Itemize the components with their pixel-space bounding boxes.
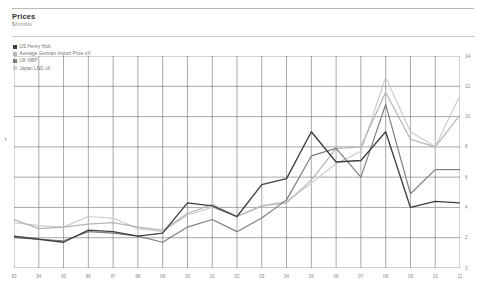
y-axis-tick-label: 0 xyxy=(465,266,481,271)
plot-area xyxy=(14,56,460,268)
x-axis-tick-label: 98 xyxy=(131,274,145,279)
x-axis-tick-label: 94 xyxy=(32,274,46,279)
x-axis-tick-label: 99 xyxy=(156,274,170,279)
header-divider-bottom xyxy=(12,36,474,37)
x-axis-tick-label: 97 xyxy=(106,274,120,279)
y-axis-tick-label: 12 xyxy=(465,84,481,89)
x-axis-tick-label: 05 xyxy=(304,274,318,279)
legend-item-label: UK NBP xyxy=(20,57,38,64)
y-axis-tick-label: 8 xyxy=(465,144,481,149)
legend-item-label: US Henry Hub xyxy=(20,43,51,50)
legend-swatch-icon xyxy=(13,59,17,63)
y-axis-tick-label: 6 xyxy=(465,175,481,180)
chart-figure: Prices $/mmbtu US Henry HubAverage Germa… xyxy=(0,0,493,293)
x-axis-tick-label: 06 xyxy=(329,274,343,279)
y-axis-tick-label: 2 xyxy=(465,235,481,240)
x-axis-tick-label: 10 xyxy=(428,274,442,279)
x-axis-tick-label: 09 xyxy=(403,274,417,279)
legend-item: UK NBP xyxy=(13,57,90,64)
legend-swatch-icon xyxy=(13,66,17,70)
x-axis-tick-label: 01 xyxy=(205,274,219,279)
y-axis-tick-label: 10 xyxy=(465,114,481,119)
legend-item: Japan LNG cif xyxy=(13,65,90,72)
chart-header: Prices $/mmbtu xyxy=(12,8,474,28)
x-axis-tick-label: 93 xyxy=(7,274,21,279)
legend-swatch-icon xyxy=(13,52,17,56)
x-axis-tick-label: 08 xyxy=(379,274,393,279)
chart-legend: US Henry HubAverage German Import Price … xyxy=(13,43,90,72)
header-divider-top xyxy=(12,8,474,9)
y-axis-left-marker: t xyxy=(5,136,6,142)
legend-swatch-icon xyxy=(13,45,17,49)
x-axis-tick-label: 96 xyxy=(81,274,95,279)
x-axis-tick-label: 02 xyxy=(230,274,244,279)
chart-title: Prices xyxy=(12,12,474,21)
legend-item: Average German Import Price cif xyxy=(13,50,90,57)
x-axis-tick-label: 95 xyxy=(57,274,71,279)
x-axis-tick-label: 00 xyxy=(180,274,194,279)
x-axis-tick-label: 04 xyxy=(280,274,294,279)
legend-item: US Henry Hub xyxy=(13,43,90,50)
y-axis-tick-label: 14 xyxy=(465,54,481,59)
legend-item-label: Average German Import Price cif xyxy=(20,50,91,57)
chart-subtitle: $/mmbtu xyxy=(12,21,474,28)
x-axis-tick-label: 07 xyxy=(354,274,368,279)
y-axis-tick-label: 4 xyxy=(465,205,481,210)
x-axis-tick-label: 11 xyxy=(453,274,467,279)
legend-item-label: Japan LNG cif xyxy=(20,65,51,72)
x-axis-tick-label: 03 xyxy=(255,274,269,279)
plot-svg xyxy=(14,56,460,268)
